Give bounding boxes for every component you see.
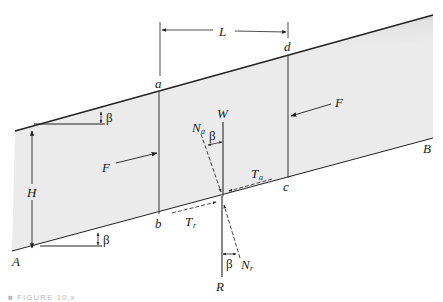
svg-text:W: W bbox=[217, 106, 229, 121]
svg-text:a: a bbox=[259, 173, 263, 182]
figure-caption: ■ FIGURE 10.x bbox=[8, 293, 76, 302]
svg-text:r: r bbox=[250, 264, 254, 273]
point-d-label: d bbox=[284, 39, 291, 54]
force-Nr: N r β bbox=[223, 205, 254, 273]
svg-text:F: F bbox=[101, 160, 111, 175]
svg-text:β: β bbox=[106, 110, 113, 125]
svg-text:a: a bbox=[201, 127, 205, 136]
svg-text:β: β bbox=[103, 232, 110, 247]
svg-text:R: R bbox=[215, 279, 224, 294]
svg-text:H: H bbox=[26, 185, 37, 200]
svg-text:F: F bbox=[334, 95, 344, 110]
point-b-label: b bbox=[155, 216, 162, 231]
svg-text:L: L bbox=[218, 24, 226, 39]
point-B-label: B bbox=[423, 141, 431, 156]
point-a-label: a bbox=[155, 76, 162, 91]
svg-text:T: T bbox=[185, 214, 193, 229]
svg-text:β: β bbox=[209, 128, 216, 143]
svg-text:T: T bbox=[251, 166, 259, 181]
svg-text:r: r bbox=[193, 221, 197, 230]
point-c-label: c bbox=[283, 179, 289, 194]
point-A-label: A bbox=[11, 254, 20, 269]
infinite-slope-diagram: β β H L a d b c A B F F W bbox=[0, 0, 443, 302]
force-R: R bbox=[215, 196, 224, 294]
svg-text:β: β bbox=[226, 256, 233, 271]
